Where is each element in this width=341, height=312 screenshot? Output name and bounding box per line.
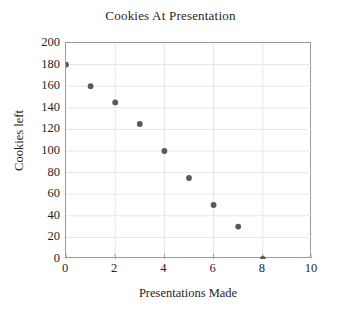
x-axis-title: Presentations Made [65,286,311,301]
y-tick-label: 180 [20,56,60,71]
x-tick-label: 2 [99,261,129,276]
data-point-group [66,62,266,259]
data-point [66,62,69,68]
plot-area [65,42,311,258]
data-point [260,256,266,259]
x-tick-label: 0 [50,261,80,276]
data-point [211,202,217,208]
y-tick-label: 20 [20,229,60,244]
gridlines [66,43,312,259]
data-point [112,100,118,106]
plot-canvas [66,43,312,259]
y-tick-label: 200 [20,35,60,50]
x-tick-label: 8 [247,261,277,276]
data-point [88,83,94,89]
y-axis-title: Cookies left [12,71,27,211]
chart-figure: Cookies At Presentation 0204060801001201… [0,0,341,312]
data-point [235,224,241,230]
data-point [186,175,192,181]
x-tick-label: 10 [296,261,326,276]
chart-title: Cookies At Presentation [0,8,341,24]
data-point [137,121,143,127]
data-point [162,148,168,154]
x-tick-label: 4 [148,261,178,276]
x-tick-label: 6 [198,261,228,276]
